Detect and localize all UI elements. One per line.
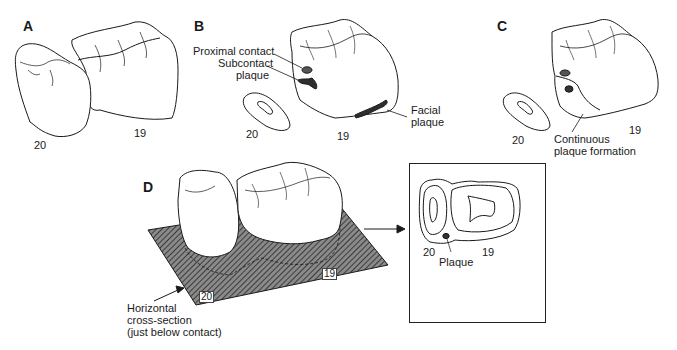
panel-a-teeth-drawing bbox=[15, 22, 178, 137]
label-horizontal: Horizontal bbox=[127, 302, 177, 314]
label-facial: Facial bbox=[411, 104, 440, 116]
label-plaque-formation: plaque formation bbox=[554, 145, 636, 157]
panel-c-tooth-drawing bbox=[503, 19, 658, 132]
tooth-number-20-c: 20 bbox=[512, 134, 524, 146]
inset-tooth-number-20: 20 bbox=[423, 246, 435, 258]
tooth-number-20-a: 20 bbox=[34, 139, 46, 151]
inset-tooth-number-19: 19 bbox=[482, 246, 494, 258]
label-subcontact: Subcontact bbox=[218, 57, 273, 69]
panel-d-cross-section-drawing bbox=[148, 162, 405, 305]
panel-letter-d: D bbox=[143, 179, 153, 195]
panel-letter-c: C bbox=[497, 18, 507, 34]
tooth-number-20-b: 20 bbox=[246, 128, 258, 140]
tooth-number-19-d: 19 bbox=[322, 268, 337, 280]
panel-letter-a: A bbox=[23, 18, 33, 34]
dental-plaque-figure bbox=[0, 0, 677, 350]
label-proximal-contact: Proximal contact bbox=[193, 45, 274, 57]
inset-label-plaque: Plaque bbox=[439, 256, 473, 268]
label-subcontact-plaque: plaque bbox=[236, 69, 269, 81]
label-continuous: Continuous bbox=[554, 133, 610, 145]
label-just-below-contact: (just below contact) bbox=[127, 326, 222, 338]
label-cross-section: cross-section bbox=[127, 314, 192, 326]
tooth-number-19-a: 19 bbox=[134, 127, 146, 139]
tooth-number-20-d: 20 bbox=[199, 291, 214, 303]
tooth-number-19-c: 19 bbox=[629, 124, 641, 136]
tooth-number-19-b: 19 bbox=[337, 130, 349, 142]
panel-letter-b: B bbox=[194, 18, 204, 34]
label-facial-plaque: plaque bbox=[411, 116, 444, 128]
cross-section-inset-frame bbox=[409, 163, 546, 323]
